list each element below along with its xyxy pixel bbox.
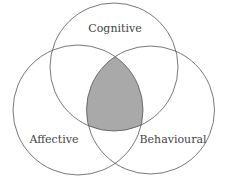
cognitive-label: Cognitive [88,22,141,35]
affective-label: Affective [29,133,79,146]
triple-intersection-region [87,46,215,174]
venn-diagram: Cognitive Affective Behavioural [0,0,226,185]
behavioural-label: Behavioural [139,133,206,146]
